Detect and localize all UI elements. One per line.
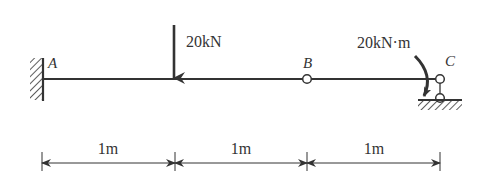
ground-hatch bbox=[418, 101, 462, 110]
point-label-b: B bbox=[303, 55, 312, 71]
point-label-c: C bbox=[445, 53, 456, 69]
point-load-label: 20kN bbox=[186, 33, 222, 50]
dim-label-2: 1m bbox=[231, 140, 252, 157]
fixed-support-a bbox=[30, 58, 43, 101]
hinge-b bbox=[303, 75, 312, 84]
moment-label: 20kN·m bbox=[357, 34, 411, 51]
dim-label-1: 1m bbox=[98, 140, 119, 157]
wall-hatch bbox=[30, 58, 42, 100]
hinge-c bbox=[436, 75, 445, 84]
dim-label-3: 1m bbox=[364, 140, 385, 157]
beam-diagram: A 20kN B 20kN·m C 1m 1m 1m bbox=[0, 0, 484, 179]
dimension-lines: 1m 1m 1m bbox=[42, 140, 440, 171]
point-label-a: A bbox=[47, 55, 58, 71]
moment-arrow bbox=[415, 56, 427, 96]
